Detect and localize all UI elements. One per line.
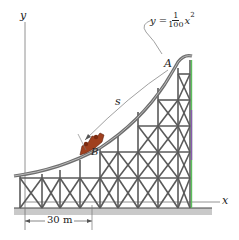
- path-label-s: s: [115, 96, 121, 107]
- roller-coaster-diagram: y x y = 1 100 x 2 A B s 30 m: [0, 0, 239, 240]
- dimension-label: 30 m: [45, 215, 74, 225]
- dim-arrow-left: [25, 219, 30, 223]
- diagram-graphics: [0, 0, 239, 240]
- equation-lhs: y =: [150, 16, 167, 26]
- equation-exponent: 2: [190, 12, 194, 19]
- dim-arrow-right: [87, 219, 92, 223]
- ground-shading: [14, 208, 212, 215]
- equation-denominator: 100: [168, 21, 183, 29]
- x-axis-label: x: [222, 195, 228, 206]
- point-a-label: A: [164, 58, 172, 69]
- point-b-label: B: [91, 147, 98, 157]
- parabola-equation: y = 1 100 x 2: [150, 12, 195, 29]
- equation-fraction: 1 100: [168, 12, 183, 29]
- y-axis-label: y: [20, 10, 26, 21]
